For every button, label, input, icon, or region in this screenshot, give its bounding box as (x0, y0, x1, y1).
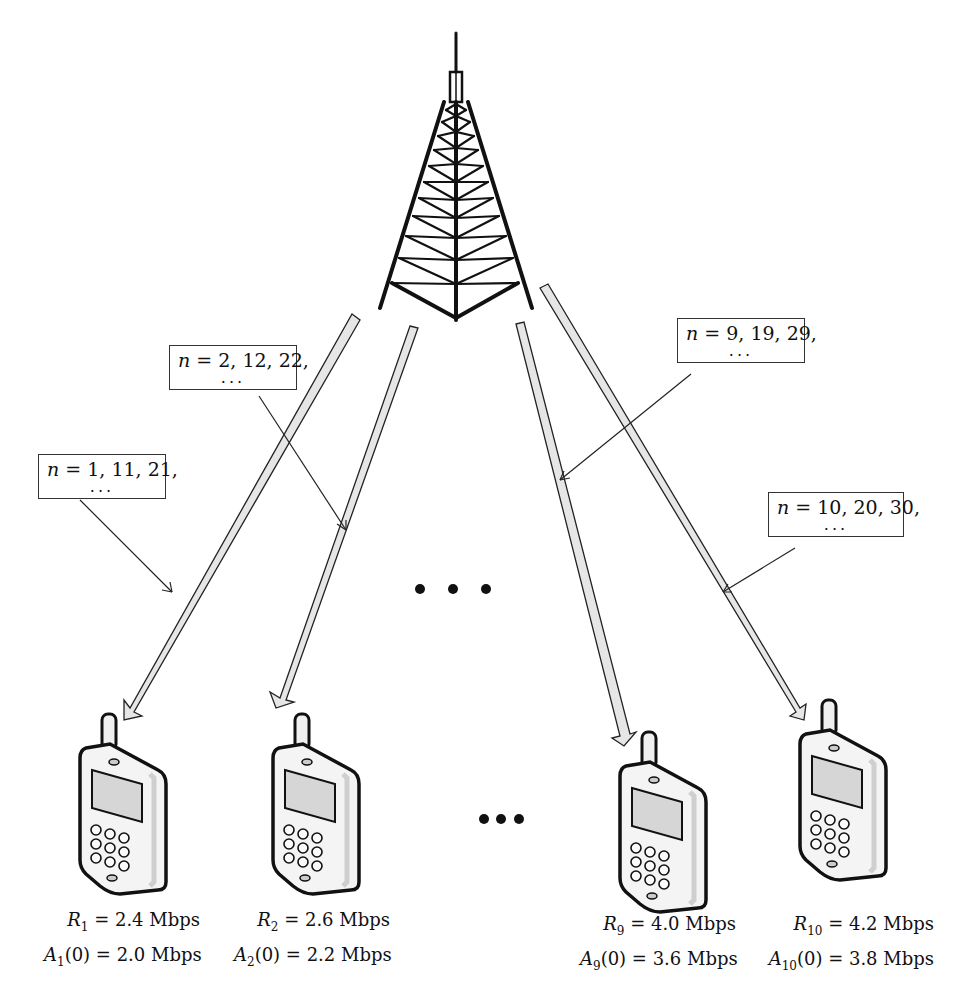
ellipsis-bottom (479, 814, 524, 824)
slot-label-dots: ... (686, 344, 796, 358)
user-caption-10: R10 = 4.2 Mbps A10(0) = 3.8 Mbps (764, 910, 934, 979)
slot-label-text: = 2, 12, 22, (190, 349, 309, 371)
mobile-phone-icon-user-9 (620, 732, 706, 912)
mobile-phone-icon-user-10 (800, 700, 886, 880)
slot-label-text: = 1, 11, 21, (59, 458, 178, 480)
slot-label-user-2: n = 2, 12, 22, ... (169, 345, 297, 390)
beam-to-user-9 (516, 322, 636, 746)
mobile-phone-icon-user-1 (80, 714, 166, 894)
avg-throughput-line: A2(0) = 2.2 Mbps (234, 941, 390, 976)
slot-label-user-9: n = 9, 19, 29, ... (677, 318, 805, 363)
slot-label-var: n (777, 496, 789, 518)
slot-label-dots: ... (178, 371, 288, 385)
rate-line: R1 = 2.4 Mbps (44, 906, 200, 941)
mobile-phone-icon-user-2 (273, 714, 359, 894)
slot-label-dots: ... (47, 480, 157, 494)
user-caption-2: R2 = 2.6 Mbps A2(0) = 2.2 Mbps (234, 906, 390, 975)
user-caption-9: R9 = 4.0 Mbps A9(0) = 3.6 Mbps (580, 910, 736, 979)
rate-line: R9 = 4.0 Mbps (580, 910, 736, 945)
slot-label-text: = 10, 20, 30, (789, 496, 920, 518)
rate-line: R2 = 2.6 Mbps (234, 906, 390, 941)
slot-label-text: = 9, 19, 29, (698, 322, 817, 344)
user-caption-1: R1 = 2.4 Mbps A1(0) = 2.0 Mbps (44, 906, 200, 975)
slot-label-var: n (686, 322, 698, 344)
slot-label-user-10: n = 10, 20, 30, ... (768, 492, 904, 537)
slot-label-user-1: n = 1, 11, 21, ... (38, 454, 166, 499)
slot-label-var: n (47, 458, 59, 480)
slot-label-var: n (178, 349, 190, 371)
ellipsis-middle (415, 584, 491, 594)
label-pointers (80, 374, 795, 592)
avg-throughput-line: A10(0) = 3.8 Mbps (764, 945, 934, 980)
avg-throughput-line: A9(0) = 3.6 Mbps (580, 945, 736, 980)
rate-line: R10 = 4.2 Mbps (764, 910, 934, 945)
slot-label-dots: ... (777, 518, 895, 532)
avg-throughput-line: A1(0) = 2.0 Mbps (44, 941, 200, 976)
cell-tower-icon (380, 33, 532, 320)
